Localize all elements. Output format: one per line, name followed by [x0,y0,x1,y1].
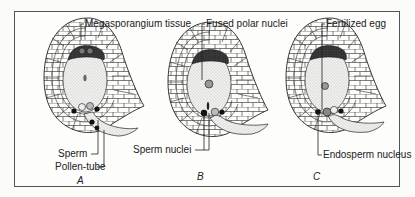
panel-label-c: C [313,171,320,182]
panel-label-b: B [197,171,204,182]
panel-b-ovule [168,22,268,137]
panel-label-a: A [77,175,84,186]
label-sperm-nuclei: Sperm nuclei [133,145,191,155]
label-sperm: Sperm [58,149,87,159]
label-megasporangium-tissue: Megasporangium tissue [85,19,191,29]
label-pollen-tube: Pollen-tube [55,162,106,172]
label-fused-polar-nuclei: Fused polar nuclei [206,19,288,29]
panel-a-ovule [44,18,144,136]
label-fertilized-egg: Fertilized egg [326,19,386,29]
label-endosperm-nucleus: Endosperm nucleus [323,150,411,160]
panel-c-ovule [286,18,386,133]
